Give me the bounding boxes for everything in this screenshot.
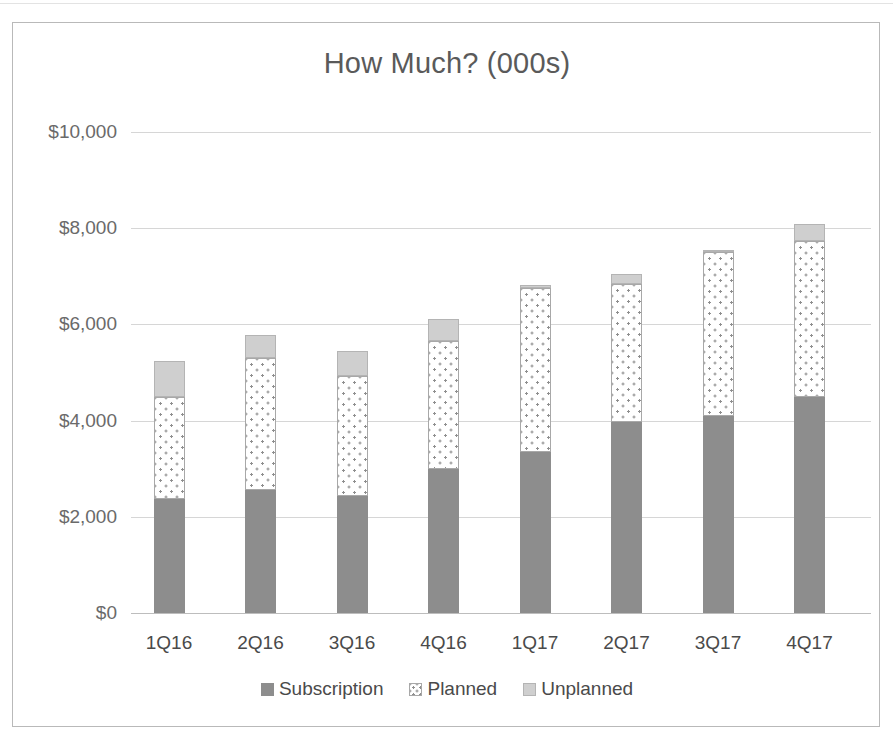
- legend-item-planned[interactable]: Planned: [409, 678, 497, 700]
- x-axis-line: [131, 613, 871, 614]
- bar-segment-subscription[interactable]: [245, 490, 276, 613]
- bar-segment-unplanned[interactable]: [611, 274, 642, 285]
- x-axis-tick-label: 4Q17: [765, 632, 855, 654]
- gridline: [131, 517, 871, 518]
- gridline: [131, 324, 871, 325]
- bar-stack[interactable]: [154, 361, 185, 613]
- bar-segment-planned[interactable]: [428, 341, 459, 469]
- bar-stack[interactable]: [337, 351, 368, 613]
- bar-stack[interactable]: [428, 319, 459, 613]
- y-axis-tick-label: $0: [96, 602, 117, 624]
- bar-segment-subscription[interactable]: [154, 499, 185, 613]
- legend-swatch-unplanned-icon: [523, 683, 536, 696]
- bar-segment-planned[interactable]: [611, 284, 642, 421]
- bar-segment-subscription[interactable]: [520, 452, 551, 613]
- bar-stack[interactable]: [794, 224, 825, 613]
- y-axis-tick-label: $8,000: [59, 217, 117, 239]
- bar-segment-subscription[interactable]: [703, 416, 734, 613]
- bar-segment-subscription[interactable]: [794, 397, 825, 613]
- legend-swatch-planned-icon: [409, 683, 422, 696]
- scan-artifact-line: [0, 3, 893, 4]
- bar-stack[interactable]: [703, 250, 734, 613]
- plot-area: $0$2,000$4,000$6,000$8,000$10,000 1Q162Q…: [131, 132, 871, 613]
- bar-segment-subscription[interactable]: [337, 496, 368, 613]
- y-axis-tick-label: $4,000: [59, 410, 117, 432]
- bar-segment-unplanned[interactable]: [245, 335, 276, 357]
- legend-item-subscription[interactable]: Subscription: [261, 678, 384, 700]
- bar-segment-unplanned[interactable]: [794, 224, 825, 240]
- x-axis-tick-label: 2Q17: [582, 632, 672, 654]
- y-axis-tick-label: $2,000: [59, 506, 117, 528]
- bar-segment-subscription[interactable]: [428, 469, 459, 613]
- y-axis-tick-label: $10,000: [48, 121, 117, 143]
- y-axis-tick-label: $6,000: [59, 313, 117, 335]
- gridline: [131, 421, 871, 422]
- bar-segment-planned[interactable]: [703, 252, 734, 416]
- bar-segment-subscription[interactable]: [611, 422, 642, 613]
- gridline: [131, 228, 871, 229]
- bar-segment-planned[interactable]: [337, 376, 368, 496]
- legend-label: Unplanned: [541, 678, 633, 700]
- chart-frame: How Much? (000s) $0$2,000$4,000$6,000$8,…: [12, 22, 880, 727]
- x-axis-tick-label: 3Q16: [307, 632, 397, 654]
- bar-segment-planned[interactable]: [245, 358, 276, 490]
- x-axis-tick-label: 2Q16: [216, 632, 306, 654]
- x-axis-tick-label: 3Q17: [673, 632, 763, 654]
- bar-segment-unplanned[interactable]: [337, 351, 368, 376]
- x-axis-tick-label: 1Q16: [124, 632, 214, 654]
- bar-segment-planned[interactable]: [154, 397, 185, 499]
- legend-swatch-subscription-icon: [261, 683, 274, 696]
- legend-label: Subscription: [279, 678, 384, 700]
- bar-segment-unplanned[interactable]: [154, 361, 185, 397]
- gridline: [131, 132, 871, 133]
- legend-item-unplanned[interactable]: Unplanned: [523, 678, 633, 700]
- bar-segment-unplanned[interactable]: [428, 319, 459, 341]
- bar-stack[interactable]: [520, 285, 551, 613]
- bar-segment-planned[interactable]: [794, 241, 825, 397]
- chart-title: How Much? (000s): [13, 47, 881, 80]
- bar-segment-planned[interactable]: [520, 288, 551, 452]
- bar-stack[interactable]: [245, 335, 276, 613]
- bar-stack[interactable]: [611, 274, 642, 613]
- x-axis-tick-label: 4Q16: [399, 632, 489, 654]
- legend-label: Planned: [427, 678, 497, 700]
- chart-legend: SubscriptionPlannedUnplanned: [13, 678, 881, 700]
- x-axis-tick-label: 1Q17: [490, 632, 580, 654]
